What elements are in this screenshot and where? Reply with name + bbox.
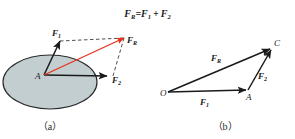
- label-fr-b-sub: R: [216, 58, 221, 64]
- label-f1-a-sub: 1: [58, 33, 61, 39]
- panel-a: A F1 F2 FR （a）: [3, 28, 137, 132]
- dashed-line-top: [60, 38, 124, 41]
- label-fr-a-sub: R: [132, 40, 137, 46]
- label-f2-panel-a: F2: [111, 75, 121, 86]
- label-f1-panel-b: F1: [199, 97, 209, 108]
- vector-addition-figure: FR=F1+F2 A F1 F2: [0, 0, 295, 139]
- figure-canvas: FR=F1+F2 A F1 F2: [0, 0, 295, 139]
- label-f1-b-symbol: F: [199, 97, 206, 107]
- point-label-o: O: [160, 88, 167, 98]
- point-label-c: C: [274, 38, 281, 48]
- panel-b: O A C F1 F2 FR （b）: [160, 38, 281, 132]
- label-f2-a-symbol: F: [111, 75, 118, 85]
- label-fr-panel-a: FR: [126, 35, 137, 46]
- vector-fr-b-resultant: [168, 49, 270, 92]
- label-fr-b-symbol: F: [210, 53, 217, 63]
- vector-f2-b: [248, 50, 271, 90]
- point-label-a-panel-a: A: [34, 71, 41, 81]
- label-f1-b-sub: 1: [206, 102, 209, 108]
- title-plus: +: [153, 8, 159, 19]
- vector-f2-a: [44, 75, 107, 76]
- vector-f1-b: [168, 90, 246, 92]
- label-f2-b-sub: 2: [263, 76, 267, 82]
- label-f1-a-symbol: F: [51, 28, 58, 38]
- caption-panel-b: （b）: [213, 121, 238, 132]
- label-f2-b-symbol: F: [257, 71, 264, 81]
- title-formula-text: FR=F1+F2: [123, 8, 171, 20]
- label-f2-panel-b: F2: [257, 71, 267, 82]
- caption-panel-a: （a）: [38, 121, 62, 132]
- label-f1-panel-a: F1: [51, 28, 61, 39]
- label-fr-panel-b: FR: [210, 53, 221, 64]
- title-f2-sub: 2: [166, 13, 171, 20]
- title-f1-sub: 1: [148, 13, 151, 20]
- dashed-line-right: [113, 38, 124, 76]
- label-f2-a-sub: 2: [117, 80, 121, 86]
- title-formula: FR=F1+F2: [123, 8, 171, 20]
- point-label-a-panel-b: A: [245, 92, 252, 102]
- label-fr-a-symbol: F: [126, 35, 133, 45]
